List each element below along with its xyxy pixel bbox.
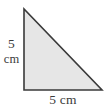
left-side-dimension-unit: cm bbox=[0, 53, 23, 66]
left-side-dimension-value: 5 bbox=[0, 37, 23, 51]
left-side-dimension-label: 5 cm bbox=[0, 37, 23, 66]
triangle-polygon bbox=[24, 9, 102, 90]
bottom-side-dimension-label: 5 cm bbox=[24, 93, 102, 107]
right-triangle-figure: 5 cm 5 cm bbox=[0, 0, 109, 112]
